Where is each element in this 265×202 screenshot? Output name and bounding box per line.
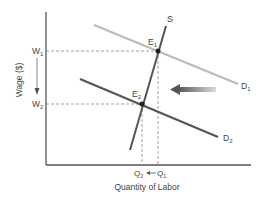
label-w2: W2 — [32, 99, 44, 110]
label-d1: D1 — [241, 81, 251, 92]
label-w1: W1 — [32, 46, 44, 57]
y-axis-title: Wage ($) — [14, 63, 24, 98]
label-q1: Q1 — [157, 169, 166, 179]
label-e2: E2 — [132, 89, 142, 100]
label-d2: D2 — [223, 133, 233, 144]
labor-market-diagram: S E1 E2 D1 D2 W1 W2 Q2 Q1 Quantity of La… — [0, 0, 265, 202]
label-e1: E1 — [148, 37, 158, 48]
demand-curve-d1 — [94, 25, 238, 84]
equilibrium-point-e2 — [140, 102, 145, 107]
label-q2: Q2 — [134, 169, 143, 179]
quantity-decrease-arrow-icon — [146, 171, 156, 175]
equilibrium-point-e1 — [156, 49, 161, 54]
label-supply: S — [167, 14, 173, 24]
wage-decrease-arrow-icon — [35, 58, 40, 95]
x-axis-title: Quantity of Labor — [114, 182, 179, 192]
demand-shift-arrow-icon — [170, 84, 216, 95]
